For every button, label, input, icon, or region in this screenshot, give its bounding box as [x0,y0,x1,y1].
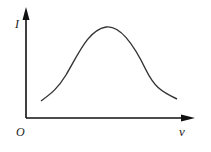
intensity-frequency-diagram: I O ν [0,0,211,152]
y-axis-arrow-icon [23,7,30,20]
y-axis-label: I [14,17,20,31]
x-axis-arrow-icon [181,115,195,122]
x-axis-label: ν [179,124,185,139]
origin-label: O [16,125,25,139]
intensity-curve [41,27,177,101]
